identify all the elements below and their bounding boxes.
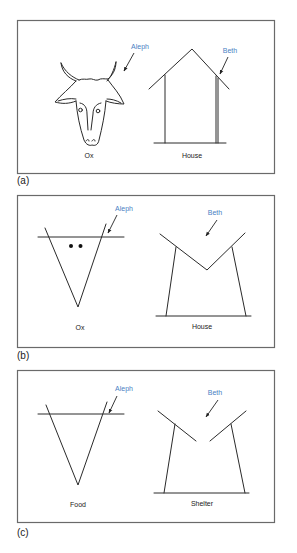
caption-house-b: House xyxy=(192,323,212,330)
arrow-icon xyxy=(206,220,217,236)
annotation-beth-b: Beth xyxy=(208,209,223,216)
caption-shelter-c: Shelter xyxy=(191,500,214,507)
alphabet-evolution-diagram: Ox Aleph House Beth (a) Ox Aleph xyxy=(0,0,297,553)
panel-a: Ox Aleph House Beth (a) xyxy=(17,21,275,187)
shelter-glyph-icon xyxy=(154,411,249,493)
arrow-icon xyxy=(220,57,228,74)
ox-v-glyph-icon xyxy=(38,224,124,307)
annotation-beth-c: Beth xyxy=(208,389,223,396)
arrow-icon xyxy=(109,396,117,413)
food-v-glyph-icon xyxy=(38,402,124,485)
panel-label-b: (b) xyxy=(17,350,29,361)
eye-dot-icon xyxy=(69,244,73,248)
arrow-icon xyxy=(124,53,134,71)
ox-head-icon xyxy=(55,62,124,145)
panel-b: Ox Aleph House Beth (b) xyxy=(17,196,275,362)
caption-food-c: Food xyxy=(70,501,86,508)
caption-ox-b: Ox xyxy=(76,324,85,331)
annotation-aleph-a: Aleph xyxy=(131,43,149,51)
annotation-aleph-c: Aleph xyxy=(115,385,133,393)
arrow-icon xyxy=(206,400,218,417)
arrow-icon xyxy=(108,215,117,233)
house-m-glyph-icon xyxy=(156,233,251,316)
panel-label-a: (a) xyxy=(17,175,29,186)
panel-label-c: (c) xyxy=(17,527,29,538)
annotation-beth-a: Beth xyxy=(223,47,238,54)
caption-house-a: House xyxy=(182,152,202,159)
annotation-aleph-b: Aleph xyxy=(115,205,133,213)
panel-c: Food Aleph Shelter Beth (c) xyxy=(17,371,275,539)
eye-dot-icon xyxy=(79,244,83,248)
caption-ox-a: Ox xyxy=(85,152,94,159)
panel-b-frame xyxy=(18,196,275,348)
house-icon xyxy=(149,49,229,143)
